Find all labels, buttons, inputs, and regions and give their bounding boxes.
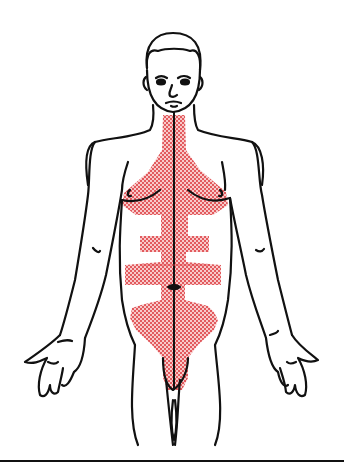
anatomy-illustration: Anterior view of human male body [0, 0, 344, 472]
body-drawing [0, 0, 344, 472]
left-arm [25, 142, 122, 396]
head [144, 33, 203, 112]
right-arm [230, 142, 318, 396]
